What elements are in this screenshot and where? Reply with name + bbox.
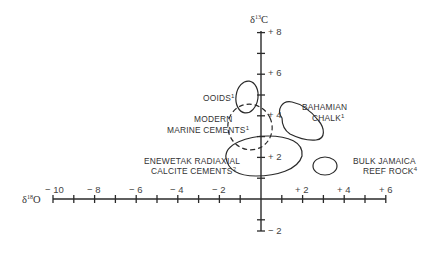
field-jamaica-reef-rock [313, 157, 337, 175]
label-enewetak-line1: ENEWETAK RADIAXIAL [144, 156, 240, 166]
x-tick-label: − 10 [45, 184, 64, 195]
y-axis-title: δ13C [250, 14, 268, 25]
isotope-crossplot: − 10 − 8 − 6 − 4 − 2 + 2 + 4 + 6 + 8 + 6… [0, 0, 421, 256]
label-jamaica-line1: BULK JAMAICA [353, 156, 416, 166]
x-tick-label: + 2 [295, 184, 308, 195]
field-ooids [234, 80, 260, 115]
label-enewetak-line2: CALCITE CEMENTS2 [151, 166, 237, 176]
x-tick-label: − 4 [170, 184, 183, 195]
y-tick-label: + 2 [268, 151, 281, 162]
label-bahamian-line1: BAHAMIAN [302, 102, 347, 112]
label-modern-line1: MODERN [194, 114, 232, 124]
x-tick-label: − 2 [212, 184, 225, 195]
y-tick-label: + 8 [268, 26, 281, 37]
label-modern-line2: MARINE CEMENTS1 [167, 125, 250, 135]
x-axis-title: δ18O [22, 194, 41, 205]
y-tick-label: − 2 [268, 225, 281, 236]
x-tick-label: − 8 [87, 184, 100, 195]
x-tick-label: + 6 [379, 184, 392, 195]
x-tick-labels: − 10 − 8 − 6 − 4 − 2 + 2 + 4 + 6 [45, 184, 392, 195]
label-ooids: OOIDS1 [203, 93, 235, 103]
x-tick-label: + 4 [337, 184, 350, 195]
x-tick-label: − 6 [129, 184, 142, 195]
y-tick-labels: + 8 + 6 + 4 + 2 − 2 [268, 26, 281, 236]
label-jamaica-line2: REEF ROCK4 [363, 166, 418, 176]
y-tick-label: + 6 [268, 67, 281, 78]
label-bahamian-line2: CHALK1 [312, 113, 345, 123]
